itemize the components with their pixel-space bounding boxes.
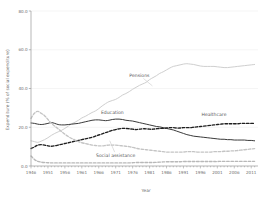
x-tick-label: 2006: [229, 170, 240, 175]
y-tick-label: 60.0: [18, 47, 28, 52]
x-tick-label: 1951: [43, 170, 54, 175]
x-tick-label: 1946: [26, 170, 37, 175]
x-tick-label: 1986: [161, 170, 172, 175]
series-label-pensions: Pensions: [129, 73, 150, 78]
x-tick-label: 1991: [178, 170, 189, 175]
y-tick-label: 80.0: [18, 9, 28, 14]
x-tick-label: 1966: [94, 170, 105, 175]
x-tick-label: 1956: [60, 170, 71, 175]
y-tick-label: 40.0: [18, 86, 28, 91]
x-tick-label: 2011: [246, 170, 257, 175]
series-label-social-assistance: Social assistance: [96, 153, 135, 158]
x-tick-label: 1996: [195, 170, 206, 175]
y-axis-title: Expenditure (% of social expenditure): [5, 49, 10, 130]
y-tick-label: 20.0: [18, 125, 28, 130]
x-tick-label: 2001: [212, 170, 223, 175]
x-tick-label: 1981: [144, 170, 155, 175]
series-label-healthcare: Healthcare: [201, 112, 226, 117]
x-tick-label: 1971: [110, 170, 121, 175]
x-axis-title: Year: [140, 188, 150, 193]
chart-container: 0.020.040.060.080.0194619511956196119661…: [0, 0, 262, 201]
expenditure-line-chart: 0.020.040.060.080.0194619511956196119661…: [0, 0, 262, 201]
series-label-education: Education: [101, 110, 124, 115]
y-tick-label: 0.0: [21, 164, 28, 169]
x-tick-label: 1976: [127, 170, 138, 175]
x-tick-label: 1961: [77, 170, 88, 175]
